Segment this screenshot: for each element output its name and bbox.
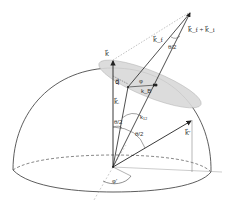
kb-label: k_B: [141, 88, 151, 94]
sum-label: k⃗_f + k⃗_i: [187, 25, 215, 34]
theta-left-label: θ/2: [114, 119, 123, 125]
kf-endpoint: [155, 84, 158, 87]
k12-label: k₁₂: [140, 114, 148, 120]
theta-top-label: θ/2: [168, 44, 177, 50]
theta-right-label: θ/2: [135, 131, 144, 137]
diagram-canvas: φ′ k⃗ q⃗ k⃗ᵢ k⃗_f k_B φ k⃗_f + k⃗_i θ/2 …: [0, 0, 230, 203]
ki-endpoint: [127, 86, 129, 88]
origin-point: [112, 166, 114, 168]
phi-prime-label: φ′: [112, 178, 118, 184]
phi-prime-ref: [113, 167, 131, 176]
vector-diagram: φ′ k⃗ q⃗ k⃗ᵢ k⃗_f k_B φ k⃗_f + k⃗_i θ/2 …: [0, 0, 230, 203]
k-label: k⃗: [104, 49, 110, 58]
k-prime-label: k⃗′: [184, 128, 191, 137]
hemisphere-arc: [13, 68, 211, 172]
base-ellipse-back: [13, 155, 211, 172]
q-label: q⃗: [115, 78, 119, 86]
kf-label: k⃗_f: [152, 35, 164, 44]
phi-label: φ: [139, 78, 143, 84]
ki-label: k⃗ᵢ: [113, 97, 120, 106]
